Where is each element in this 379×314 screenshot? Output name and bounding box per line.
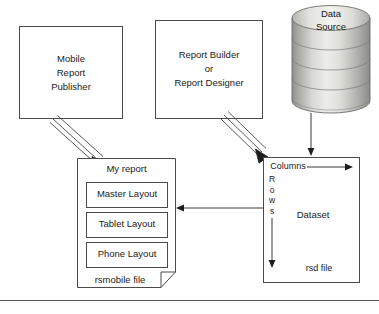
rows-letter-2: o — [267, 185, 277, 196]
dataset-box — [264, 158, 360, 283]
data-source-cylinder — [292, 6, 370, 114]
phone-layout-box — [87, 243, 168, 268]
master-layout-box — [87, 183, 168, 208]
line-arrow-data-source-to-dataset — [308, 113, 315, 156]
line-arrow-dataset-to-my-report — [176, 205, 263, 212]
mobile-report-publisher-box — [20, 27, 123, 119]
diagram-graphics-layer — [0, 0, 379, 314]
tablet-layout-box — [87, 213, 168, 238]
diagram-canvas: Mobile Report Publisher Report Builder o… — [0, 0, 379, 314]
block-arrow-builder-to-dataset — [221, 112, 269, 164]
rows-letter-4: s — [267, 206, 277, 217]
rows-letter-1: R — [267, 174, 277, 185]
report-builder-box — [156, 21, 263, 119]
rows-label: R o w s — [267, 174, 277, 216]
rows-letter-3: w — [267, 195, 277, 206]
